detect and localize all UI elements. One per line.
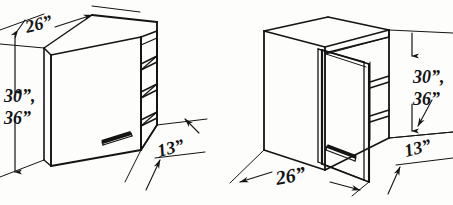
- left-cabinet-open-shelf-end: [141, 31, 157, 150]
- right-cabinet-door-handle: [326, 146, 356, 161]
- right-cabinet-drawing: [264, 17, 389, 182]
- right-cabinet-front-panel: [264, 31, 325, 170]
- left-depth-label: 13”: [155, 135, 186, 161]
- drawing-canvas: 26” 30”, 36” 13” 30”, 36” 13” 26”: [0, 0, 453, 205]
- right-height-primary-label: 30”,: [412, 67, 445, 87]
- left-width-label: 26”: [22, 11, 54, 37]
- cabinet-dimension-diagram: 26” 30”, 36” 13” 30”, 36” 13” 26”: [0, 0, 453, 205]
- left-height-primary-label: 30”,: [3, 86, 36, 106]
- right-cabinet-interior-shelves: [326, 37, 389, 140]
- left-cabinet-door-face: [51, 37, 141, 166]
- right-depth-label: 13”: [402, 135, 433, 161]
- left-height-secondary-label: 36”: [3, 108, 31, 128]
- right-height-secondary-label: 36”: [412, 89, 440, 109]
- right-cabinet-top-surface: [264, 17, 389, 53]
- right-width-label: 26”: [273, 162, 307, 189]
- left-cabinet-door-handle: [102, 133, 132, 145]
- left-cabinet-drawing: [44, 15, 157, 166]
- left-cabinet-side-panel: [44, 48, 51, 166]
